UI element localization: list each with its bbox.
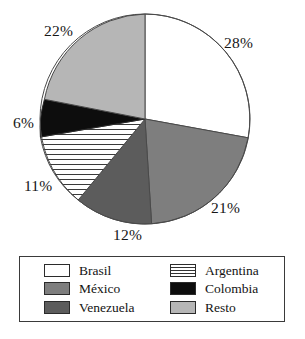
legend-swatch-mexico-icon xyxy=(44,282,70,295)
legend-item-mexico: México xyxy=(20,282,152,296)
legend-swatch-venezuela-icon xyxy=(44,301,70,314)
legend: Brasil Argentina México Colombia Venezue… xyxy=(19,256,285,322)
legend-item-resto: Resto xyxy=(152,301,284,315)
legend-label-colombia: Colombia xyxy=(205,282,258,296)
pie-label-argentina: 11% xyxy=(24,177,52,195)
legend-label-argentina: Argentina xyxy=(205,264,259,278)
legend-label-venezuela: Venezuela xyxy=(79,301,134,315)
pie-label-venezuela: 12% xyxy=(113,226,142,244)
pie-label-mexico: 21% xyxy=(211,199,240,217)
legend-label-mexico: México xyxy=(79,282,120,296)
legend-item-brasil: Brasil xyxy=(20,264,152,278)
pie-chart: 28% 21% 12% 11% 6% 22% xyxy=(0,0,305,250)
legend-swatch-argentina-icon xyxy=(170,264,196,277)
legend-item-colombia: Colombia xyxy=(152,282,284,296)
legend-grid: Brasil Argentina México Colombia Venezue… xyxy=(20,257,284,321)
legend-label-brasil: Brasil xyxy=(79,264,111,278)
pie-label-brasil: 28% xyxy=(224,34,253,52)
legend-item-argentina: Argentina xyxy=(152,264,284,278)
legend-swatch-resto-icon xyxy=(170,301,196,314)
legend-swatch-brasil-icon xyxy=(44,264,70,277)
legend-label-resto: Resto xyxy=(205,301,236,315)
pie-label-resto: 22% xyxy=(44,22,73,40)
pie-label-colombia: 6% xyxy=(13,114,34,132)
legend-swatch-colombia-icon xyxy=(170,282,196,295)
legend-item-venezuela: Venezuela xyxy=(20,301,152,315)
pie-slice-brasil xyxy=(145,14,250,138)
